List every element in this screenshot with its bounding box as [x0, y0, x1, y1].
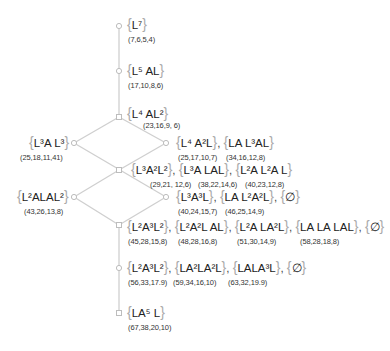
node-coord: (43,26,13,8) [24, 207, 63, 216]
node-coord: (40,24,15,7) [178, 207, 217, 216]
lattice-node [117, 223, 122, 228]
node-coord: (23,16,9, 6) [143, 121, 180, 130]
node-coord: (40,23,12,8) [245, 180, 284, 189]
node-label-la5l: {LA⁵ L} [127, 306, 165, 320]
lattice-node [163, 140, 168, 145]
empty-set-symbol: ∅ [292, 262, 302, 274]
node-coord: (29,21, 12,6) [150, 180, 191, 189]
node-coord: (46,25,14,9) [225, 207, 264, 216]
node-coord: (56,33,17.9) [128, 278, 167, 287]
node-coord: (45,28,15,8) [128, 237, 167, 246]
node-label-level5: {L³A²L²}, {L³A LAL}, {L²A L²A L} [131, 163, 292, 177]
node-coord: (25,17,10,7) [178, 153, 217, 162]
node-coord: (17,10,8,6) [128, 81, 163, 90]
node-coord: (59,34,16,10) [173, 278, 216, 287]
node-label-l7: {L⁷} [127, 18, 147, 32]
node-coord: (7,6,5,4) [128, 35, 155, 44]
lattice-node [116, 265, 121, 270]
node-label-level6-right: {L³A³L}, {LA L²A²L}, {∅} [176, 190, 300, 204]
lattice-node [117, 115, 122, 120]
lattice-node [117, 168, 122, 173]
edge [74, 197, 119, 225]
lattice-node [163, 194, 168, 199]
node-coord: (48,28,16,8) [178, 237, 217, 246]
node-coord: (51,30,14,9) [237, 237, 276, 246]
node-label-l5al: {L⁵ AL} [127, 64, 164, 78]
node-coord: (34,16,12,8) [226, 153, 265, 162]
node-coord: (67,38,20,10) [128, 323, 171, 332]
node-label-level7: {L²A³L²}, {L²A²L AL}, {L²A LA²L}, {LA LA… [127, 220, 384, 234]
lattice-node [116, 68, 121, 73]
node-coord: (25,18,11,41) [20, 153, 63, 162]
node-coord: (58,28,18,8) [300, 237, 339, 246]
edge [74, 170, 119, 197]
lattice-node [117, 311, 122, 316]
lattice-node [116, 23, 121, 28]
node-coord: (63,32,19.9) [228, 278, 267, 287]
empty-set-symbol: ∅ [370, 221, 380, 233]
lattice-node [71, 194, 76, 199]
node-label-level8: {L²A³L²}, {LA²LA²L}, {LALA³L}, {∅} [127, 261, 306, 275]
edge [74, 117, 119, 143]
node-coord: (38,22,14,6) [198, 180, 237, 189]
node-label-l2alal2: {L²ALAL²} [17, 190, 69, 204]
node-label-l3al3: {L³A L³} [29, 136, 69, 150]
node-label-level4-right: {L⁴ A²L}, {LA L³AL} [176, 136, 274, 150]
lattice-node [71, 140, 76, 145]
empty-set-symbol: ∅ [285, 191, 295, 203]
node-label-l4al2: {L⁴ AL²} [127, 107, 168, 121]
